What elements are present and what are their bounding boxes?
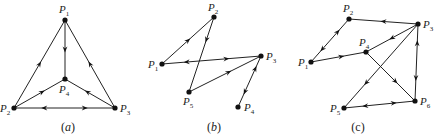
vertex-label-subscript: 4: [66, 90, 70, 98]
vertex-label-subscript: 5: [337, 109, 341, 117]
node-p1: P1: [297, 56, 314, 71]
edge-p3-p5: [344, 24, 418, 108]
vertex-label-subscript: 3: [430, 25, 434, 33]
vertex-dot-icon: [186, 89, 191, 94]
edge-p2-p1: [14, 20, 65, 108]
vertex-label-subscript: 3: [273, 57, 277, 65]
vertex-dot-icon: [341, 105, 346, 110]
graph-c: P1P2P3P4P5P6(c): [297, 2, 434, 134]
node-p2: P2: [342, 2, 354, 22]
vertex-label-subscript: 1: [155, 65, 159, 73]
edge-p4-p6: [366, 52, 415, 101]
vertex-dot-icon: [62, 76, 67, 81]
graph-caption: (b): [207, 120, 221, 134]
vertex-dot-icon: [412, 98, 417, 103]
vertex-label-subscript: 1: [66, 10, 70, 18]
vertex-label: P4: [358, 36, 370, 51]
vertex-dot-icon: [346, 16, 351, 21]
graph-caption: (a): [61, 120, 75, 134]
vertex-dot-icon: [112, 105, 117, 110]
vertex-label: P4: [58, 83, 70, 98]
vertex-label: P5: [329, 102, 341, 117]
vertex-label: P2: [342, 2, 354, 17]
vertex-label: P1: [147, 58, 159, 73]
edge-p3-p6: [414, 24, 420, 101]
edge-p1-p2: [311, 19, 349, 62]
node-p4: P4: [358, 36, 370, 55]
vertex-label: P5: [182, 95, 194, 110]
node-p2: P2: [207, 1, 219, 20]
vertex-label: P2: [207, 1, 219, 16]
vertex-label-subscript: 2: [215, 8, 219, 16]
graph-a: P1P2P3P4(a): [0, 3, 131, 134]
node-p1: P1: [147, 58, 165, 73]
vertex-dot-icon: [415, 21, 420, 26]
arrowhead-icon: [36, 61, 41, 67]
node-p5: P5: [182, 89, 194, 110]
vertex-label: P3: [119, 102, 131, 117]
vertex-label: P2: [0, 102, 11, 117]
node-p5: P5: [329, 102, 347, 117]
node-p4: P4: [58, 76, 70, 98]
graph-caption: (c): [351, 120, 364, 134]
vertex-label-subscript: 4: [366, 43, 370, 51]
node-p1: P1: [58, 3, 70, 23]
edge-p3-p4: [238, 56, 261, 107]
edge-p3-p2: [349, 19, 418, 24]
node-p4: P4: [235, 101, 254, 116]
vertex-label-subscript: 1: [305, 63, 309, 71]
edge-p5-p6: [344, 101, 415, 108]
vertex-dot-icon: [11, 105, 16, 110]
vertex-label-subscript: 4: [251, 108, 255, 116]
graph-b: P1P2P3P4P5(b): [147, 1, 277, 134]
vertex-label: P1: [297, 56, 309, 71]
vertex-label: P4: [243, 101, 255, 116]
directed-graphs-figure: P1P2P3P4(a) P1P2P3P4P5(b) P1P2P3P4P5P6(c…: [0, 0, 434, 138]
vertex-dot-icon: [62, 17, 67, 22]
edge-p1-p4: [63, 20, 68, 79]
vertex-label: P3: [265, 50, 277, 65]
edge-p3-p4: [366, 24, 418, 52]
edge-p3-p4: [65, 79, 115, 108]
edge-p3-p1: [65, 20, 115, 108]
vertex-label: P3: [422, 18, 434, 33]
edge-p2-p4: [14, 79, 65, 108]
vertex-dot-icon: [308, 59, 313, 64]
node-p3: P3: [258, 50, 276, 65]
vertex-label-subscript: 5: [190, 102, 194, 110]
vertex-label-subscript: 3: [127, 109, 131, 117]
node-p2: P2: [0, 102, 17, 117]
vertex-dot-icon: [258, 53, 263, 58]
vertex-label-subscript: 2: [7, 109, 11, 117]
vertex-dot-icon: [159, 61, 164, 66]
arrowhead-icon: [85, 91, 91, 96]
vertex-label-subscript: 2: [350, 9, 354, 17]
vertex-label: P6: [419, 95, 431, 110]
edge-p2-p3: [14, 106, 115, 111]
vertex-label-subscript: 6: [427, 102, 431, 110]
edge-p1-p4: [311, 52, 366, 62]
node-p3: P3: [112, 102, 130, 117]
vertex-dot-icon: [235, 104, 240, 109]
vertex-label: P1: [58, 3, 70, 18]
